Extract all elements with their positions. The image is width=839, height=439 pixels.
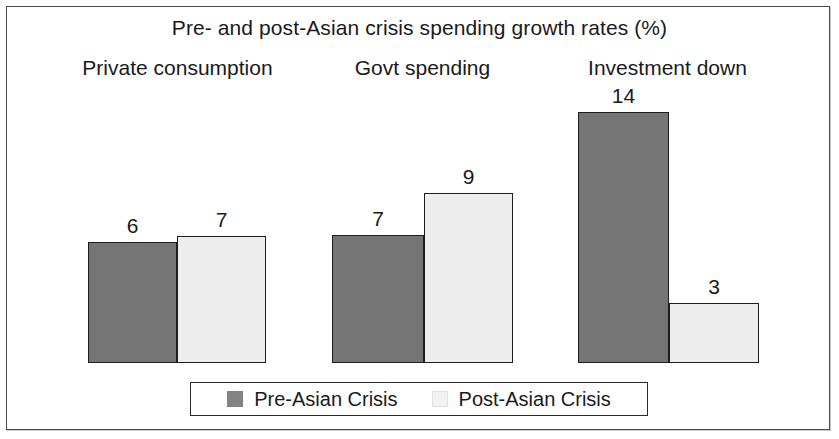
chart-figure: Pre- and post-Asian crisis spending grow… xyxy=(0,0,839,439)
legend-swatch-light-icon xyxy=(432,391,448,407)
bar-value-private-consumption-post: 7 xyxy=(177,208,266,232)
legend-label-pre-asian-crisis: Pre-Asian Crisis xyxy=(254,388,397,411)
bar-investment-down-post xyxy=(669,303,759,363)
bar-value-govt-spending-pre: 7 xyxy=(332,207,424,231)
legend-swatch-dark-icon xyxy=(227,391,243,407)
bar-value-investment-down-pre: 14 xyxy=(578,84,669,108)
chart-legend: Pre-Asian Crisis Post-Asian Crisis xyxy=(190,382,648,416)
legend-item-pre-asian-crisis: Pre-Asian Crisis xyxy=(227,388,397,411)
bar-private-consumption-post xyxy=(177,236,266,363)
bar-private-consumption-pre xyxy=(88,242,177,363)
legend-label-post-asian-crisis: Post-Asian Crisis xyxy=(459,388,611,411)
bar-investment-down-pre xyxy=(578,112,669,363)
bar-govt-spending-pre xyxy=(332,235,424,363)
bar-value-investment-down-post: 3 xyxy=(669,275,759,299)
bar-value-private-consumption-pre: 6 xyxy=(88,214,177,238)
plot-area: 6 7 7 9 14 3 xyxy=(0,0,839,439)
bar-value-govt-spending-post: 9 xyxy=(424,165,513,189)
legend-item-post-asian-crisis: Post-Asian Crisis xyxy=(432,388,611,411)
bar-govt-spending-post xyxy=(424,193,513,363)
